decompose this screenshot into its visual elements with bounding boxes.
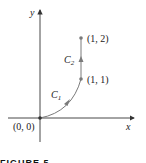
point-label-origin: (0, 0) <box>13 121 35 133</box>
point-origin <box>38 116 42 120</box>
c2-direction-arrow-icon <box>79 56 84 62</box>
point-1-1 <box>79 77 83 81</box>
figure-canvas: x y (0, 0) (1, 1) (1, 2) C1 C2 FIGURE 5 <box>0 0 146 163</box>
y-axis-label: y <box>29 7 35 18</box>
point-label-1-1: (1, 1) <box>87 74 109 86</box>
curve-label-c2: C2 <box>64 54 75 67</box>
figure-caption: FIGURE 5 <box>0 158 50 163</box>
point-1-2 <box>79 36 83 40</box>
curve-label-c1: C1 <box>51 89 61 102</box>
x-axis-label: x <box>125 121 131 132</box>
point-label-1-2: (1, 2) <box>87 33 109 45</box>
